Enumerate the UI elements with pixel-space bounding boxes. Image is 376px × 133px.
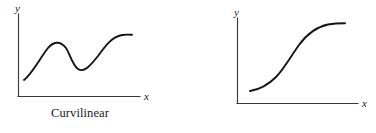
curvilinear-curve [24, 35, 132, 80]
x-axis-label-curvilinear: x [143, 90, 149, 102]
y-axis-label-exponential: y [233, 6, 239, 18]
chart-panel-exponential: y x Exponential [188, 0, 376, 133]
exponential-plot: y x [188, 0, 376, 133]
y-axis-label-curvilinear: y [14, 2, 20, 14]
chart-panel-curvilinear: y x Curvilinear [0, 0, 188, 133]
exponential-curve [250, 23, 345, 91]
x-axis-label-exponential: x [361, 97, 367, 109]
figure-canvas: y x Curvilinear y x Exponential [0, 0, 376, 133]
caption-curvilinear: Curvilinear [0, 106, 160, 121]
